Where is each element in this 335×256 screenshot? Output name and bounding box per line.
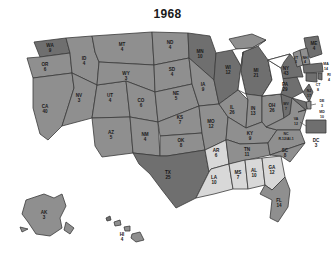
state-tx[interactable] [133, 150, 209, 208]
state-label-IN-votes: 13 [250, 111, 256, 116]
map-landmass [124, 226, 130, 231]
state-label-SD-votes: 4 [171, 72, 174, 77]
state-label-OK-votes: 8 [180, 143, 183, 148]
state-label-AL-votes: 10 [251, 173, 257, 178]
state-label-ND-votes: 4 [169, 45, 172, 50]
map-landmass [131, 232, 144, 242]
state-label-MD-code: MD [319, 110, 325, 114]
state-label-WI-votes: 12 [225, 70, 231, 75]
map-landmass [229, 34, 266, 49]
state-label-GA-votes: 12 [269, 170, 275, 175]
state-label-FL-votes: 14 [276, 203, 282, 208]
state-label-CO-votes: 6 [140, 103, 143, 108]
state-label-NH-votes: 4 [304, 60, 306, 64]
state-label-VA-code: VA [294, 117, 299, 121]
state-label-DE-votes: 3 [321, 104, 323, 108]
state-label-PA-votes: 29 [282, 87, 288, 92]
state-label-MD-votes: 10 [320, 115, 324, 119]
state-dc[interactable] [306, 120, 326, 133]
state-label-CA-votes: 40 [42, 109, 48, 114]
state-label-WV-code: WV [283, 102, 289, 106]
state-label-MS-votes: 7 [237, 175, 240, 180]
state-label-CT-code: CT [316, 83, 322, 87]
state-label-NM-votes: 4 [144, 137, 147, 142]
state-label-HI-votes: 4 [121, 237, 124, 242]
state-label-UT-votes: 4 [109, 98, 112, 103]
state-label-MO-votes: 12 [208, 124, 214, 129]
state-label-NJ-votes: 17 [307, 94, 311, 98]
state-label-NE-votes: 5 [175, 96, 178, 101]
state-label-CT-votes: 8 [317, 88, 319, 92]
state-label-NY-votes: 43 [283, 71, 289, 76]
map-landmass [114, 220, 121, 226]
state-label-MT-votes: 4 [121, 47, 124, 52]
state-label-MN-votes: 10 [197, 54, 203, 59]
state-label-IL-votes: 26 [229, 110, 235, 115]
state-label-IA-votes: 9 [202, 87, 205, 92]
state-label-NV-votes: 3 [78, 98, 81, 103]
electoral-map: WA 9 OR 6 CA 40 ID 4 NV 3 UT 4 AZ 5 MT 4… [0, 22, 335, 256]
state-label-ME-votes: 4 [313, 46, 316, 51]
state-az[interactable] [92, 117, 133, 157]
state-label-RI-code: RI [327, 73, 331, 77]
state-ct[interactable] [306, 73, 317, 82]
state-hi[interactable] [106, 216, 111, 221]
state-label-AK-votes: 3 [43, 215, 46, 220]
page-title: 1968 [0, 7, 335, 21]
state-label-TN-votes: 11 [245, 152, 250, 157]
state-label-ID-votes: 4 [83, 61, 86, 66]
state-label-AZ-votes: 5 [110, 135, 113, 140]
state-label-AR-votes: 6 [215, 153, 218, 158]
state-label-VA-votes: 12 [294, 122, 298, 126]
state-ma[interactable] [303, 63, 323, 73]
map-landmass [20, 227, 28, 232]
state-label-NJ-code: NJ [307, 89, 312, 93]
state-label-WY-votes: 3 [125, 76, 128, 81]
state-label-VT-votes: 3 [295, 60, 297, 64]
state-label-NC-code: NC [283, 132, 289, 136]
map-landmass [64, 222, 74, 234]
state-nj[interactable] [303, 84, 313, 102]
state-label-NC-votes: R-12/AI-1 [278, 137, 293, 141]
state-label-MA-votes: 14 [324, 67, 328, 71]
state-label-MI-votes: 21 [253, 73, 259, 78]
state-label-DC-votes: 3 [315, 143, 318, 148]
state-label-WV-votes: 7 [285, 107, 287, 111]
state-label-WA-votes: 9 [49, 48, 52, 53]
state-label-RI-votes: 4 [328, 78, 330, 82]
state-label-TX-votes: 25 [165, 175, 171, 180]
state-ri[interactable] [318, 73, 322, 80]
state-label-MA-code: MA [323, 62, 329, 66]
state-label-DE-code: DE [320, 99, 326, 103]
state-label-OR-votes: 6 [44, 67, 47, 72]
state-label-OH-votes: 26 [269, 108, 275, 113]
state-label-KS-votes: 7 [179, 120, 182, 125]
state-label-SC-votes: 8 [284, 153, 287, 158]
state-label-LA-votes: 10 [211, 180, 217, 185]
state-label-KY-votes: 9 [249, 136, 252, 141]
